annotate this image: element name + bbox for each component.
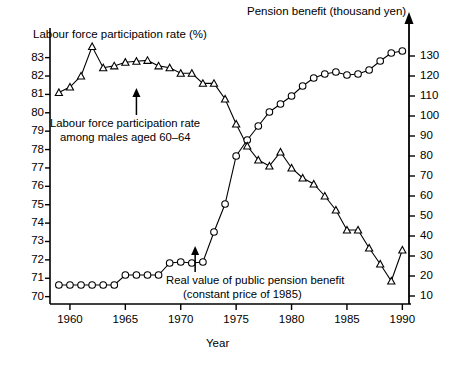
data-point-circle (377, 58, 384, 65)
data-point-triangle (277, 148, 284, 155)
data-point-triangle (233, 120, 240, 127)
data-point-circle (78, 282, 85, 289)
data-point-triangle (55, 89, 62, 96)
data-point-circle (388, 50, 395, 57)
data-point-triangle (366, 244, 373, 251)
data-point-circle (155, 272, 162, 279)
data-point-triangle (89, 43, 96, 50)
data-point-triangle (155, 62, 162, 69)
data-point-circle (266, 109, 273, 116)
data-point-triangle (310, 180, 317, 187)
data-point-circle (166, 260, 173, 267)
data-point-circle (366, 67, 373, 74)
data-point-circle (200, 259, 207, 266)
data-point-circle (89, 282, 96, 289)
data-point-circle (255, 123, 262, 130)
data-point-circle (177, 259, 184, 266)
annotation-arrow-lfpr-head (132, 88, 140, 97)
data-point-circle (355, 71, 362, 78)
data-point-circle (233, 153, 240, 160)
data-point-circle (56, 282, 63, 289)
data-point-circle (310, 75, 317, 82)
data-point-circle (333, 69, 340, 76)
plot-area (0, 0, 458, 365)
data-point-circle (277, 101, 284, 108)
chart-figure: Labour force participation rate (%) Pens… (0, 0, 458, 365)
data-point-circle (321, 71, 328, 78)
data-point-circle (100, 282, 107, 289)
series-line-labour-force-participation (59, 47, 402, 281)
data-point-triangle (288, 164, 295, 171)
data-point-circle (222, 201, 229, 208)
data-point-circle (211, 229, 218, 236)
right-axis-arrowhead (405, 12, 414, 24)
data-point-circle (288, 93, 295, 100)
data-point-circle (399, 48, 406, 55)
data-point-circle (133, 272, 140, 279)
data-point-circle (122, 272, 129, 279)
data-point-circle (189, 260, 196, 267)
data-point-triangle (377, 260, 384, 267)
data-point-circle (144, 272, 151, 279)
data-point-triangle (399, 246, 406, 253)
data-point-triangle (77, 72, 84, 79)
data-point-circle (299, 83, 306, 90)
series-line-pension-benefit (59, 51, 402, 285)
data-point-circle (344, 72, 351, 79)
data-point-triangle (388, 277, 395, 284)
annotation-arrow-pension-head (191, 246, 199, 255)
data-point-circle (67, 282, 74, 289)
data-point-circle (111, 282, 118, 289)
